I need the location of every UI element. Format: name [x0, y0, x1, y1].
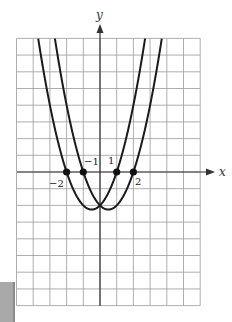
- root-point: [63, 168, 70, 175]
- root-point: [113, 168, 120, 175]
- x-axis-label: x: [219, 165, 226, 179]
- label-neg1: −1: [84, 156, 99, 167]
- root-point: [130, 168, 137, 175]
- y-axis-label: y: [95, 8, 103, 22]
- label-neg2: −2: [49, 178, 64, 189]
- label-2: 2: [135, 176, 141, 187]
- label-1: 1: [108, 155, 114, 166]
- y-axis-arrow-icon: [97, 24, 104, 33]
- parabola-graph: x y −2 −1 1 2: [0, 0, 232, 322]
- x-axis-arrow-icon: [206, 169, 215, 176]
- gray-tab: [0, 282, 15, 322]
- x-axis: x: [17, 165, 226, 179]
- root-point: [80, 168, 87, 175]
